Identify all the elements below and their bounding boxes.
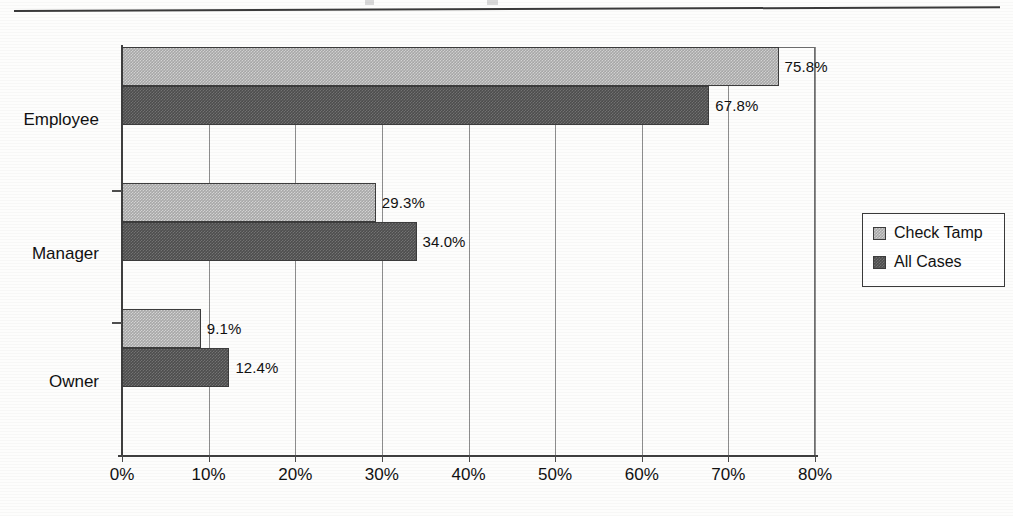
bar-value-label: 67.8%	[715, 97, 758, 114]
x-axis-tick	[469, 455, 470, 462]
bar-value-label: 34.0%	[423, 233, 466, 250]
x-axis-tick	[728, 455, 729, 462]
x-axis-tick	[815, 455, 816, 462]
bar-value-label: 12.4%	[235, 359, 278, 376]
bar-chart: Employee Manager Owner 75.8%67.8%29.3%34…	[0, 28, 1013, 516]
x-axis-tick-label: 20%	[278, 465, 312, 485]
x-axis-tick-label: 40%	[451, 465, 485, 485]
bar-owner-check-tamp	[122, 309, 201, 348]
clipped-title-remnant	[365, 0, 374, 5]
x-axis-tick-label: 80%	[798, 465, 832, 485]
legend-swatch-icon	[873, 256, 886, 269]
legend-entry-all-cases: All Cases	[873, 253, 962, 271]
x-axis-tick-label: 70%	[711, 465, 745, 485]
bar-manager-all-cases	[122, 222, 417, 261]
bar-manager-check-tamp	[122, 183, 376, 222]
x-axis-tick-label: 0%	[110, 465, 135, 485]
y-axis-tick	[112, 190, 122, 192]
category-label-employee: Employee	[23, 110, 99, 130]
x-axis-tick	[642, 455, 643, 462]
bar-employee-check-tamp	[122, 47, 779, 86]
legend-label-check-tamp: Check Tamp	[894, 224, 983, 242]
y-axis-tick	[112, 322, 122, 324]
x-axis-tick	[122, 455, 123, 462]
horizontal-rule	[14, 6, 1000, 12]
category-label-manager: Manager	[32, 244, 99, 264]
page-canvas: Employee Manager Owner 75.8%67.8%29.3%34…	[0, 0, 1013, 516]
legend-label-all-cases: All Cases	[894, 253, 962, 271]
legend-swatch-icon	[873, 227, 886, 240]
category-label-owner: Owner	[49, 372, 99, 392]
chart-legend: Check Tamp All Cases	[862, 213, 1005, 287]
x-axis-tick-label: 50%	[538, 465, 572, 485]
x-axis-tick	[295, 455, 296, 462]
gridline	[815, 47, 816, 455]
clipped-title-remnant	[487, 0, 498, 5]
bar-value-label: 75.8%	[785, 58, 828, 75]
legend-entry-check-tamp: Check Tamp	[873, 224, 983, 242]
bar-employee-all-cases	[122, 86, 709, 125]
x-axis-tick	[555, 455, 556, 462]
bar-value-label: 9.1%	[207, 320, 242, 337]
x-axis-tick	[382, 455, 383, 462]
bar-value-label: 29.3%	[382, 194, 425, 211]
bar-owner-all-cases	[122, 348, 229, 387]
x-axis-tick-label: 10%	[192, 465, 226, 485]
x-axis-tick	[209, 455, 210, 462]
x-axis-tick-label: 60%	[625, 465, 659, 485]
x-axis-tick-label: 30%	[365, 465, 399, 485]
